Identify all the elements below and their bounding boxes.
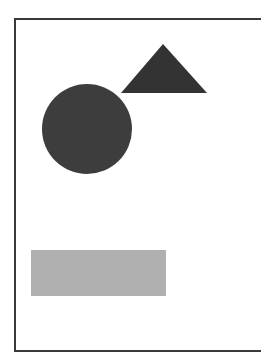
circle-shape (42, 84, 132, 174)
triangle-shape (121, 44, 207, 93)
rectangle-shape (31, 250, 166, 296)
shapes-canvas (0, 0, 261, 356)
